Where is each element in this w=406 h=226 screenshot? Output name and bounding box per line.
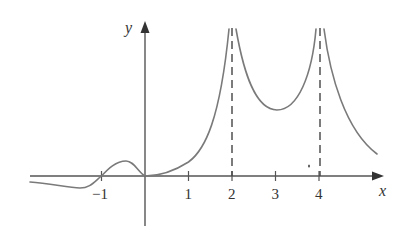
tick-label-neg1: −1	[92, 186, 108, 202]
function-graph: x y −1 1 2 3 4	[0, 0, 406, 226]
y-axis-arrow-icon	[141, 21, 150, 33]
x-tick-labels: −1 1 2 3 4	[92, 186, 323, 202]
tick-label-1: 1	[185, 186, 193, 202]
tick-label-4: 4	[315, 186, 323, 202]
tick-label-3: 3	[272, 186, 280, 202]
y-axis: y	[123, 19, 150, 226]
x-axis-label: x	[378, 182, 386, 199]
asymptotes	[232, 28, 320, 176]
stray-mark	[308, 164, 310, 167]
y-axis-label: y	[123, 19, 133, 37]
tick-label-2: 2	[228, 186, 236, 202]
curve-middle-branch	[236, 29, 316, 110]
curve-right-branch	[324, 29, 377, 154]
curve-left-branch	[30, 29, 229, 188]
x-axis-arrow-icon	[372, 172, 384, 181]
curve	[30, 29, 377, 188]
x-axis: x	[30, 172, 386, 200]
